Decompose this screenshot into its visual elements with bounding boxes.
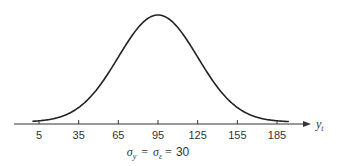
sigma-y-subscript: y <box>132 152 137 161</box>
x-axis-label: yt <box>315 117 324 133</box>
sigma-value: 30 <box>176 145 190 159</box>
x-tick-label: 185 <box>268 129 286 141</box>
x-tick-label: 95 <box>152 129 164 141</box>
equals-sign-2: = <box>165 145 172 159</box>
x-axis-label-subscript: t <box>321 124 324 133</box>
x-tick-label: 35 <box>73 129 85 141</box>
x-tick-label: 5 <box>36 129 42 141</box>
equals-sign-1: = <box>141 145 148 159</box>
caption-annotation: σy=σε=30 <box>127 145 190 161</box>
x-axis-arrow-icon <box>303 121 311 127</box>
sigma-e-subscript: ε <box>159 152 163 161</box>
density-curve <box>32 15 289 122</box>
x-tick-label: 155 <box>228 129 246 141</box>
x-tick-label: 65 <box>112 129 124 141</box>
x-tick-label: 125 <box>188 129 206 141</box>
normal-distribution-chart: yt 5356595125155185 σy=σε=30 <box>0 0 345 166</box>
